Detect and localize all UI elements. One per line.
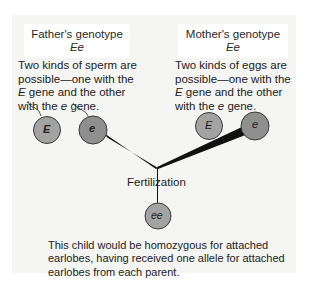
child-genotype-label: ee — [151, 209, 163, 221]
father-gamete-E-label: E — [43, 123, 50, 135]
mother-gamete-e-label: e — [252, 118, 258, 130]
fertilization-label: Fertilization — [127, 176, 186, 188]
mother-gamete-E-label: E — [205, 119, 212, 131]
father-e-leader-line — [73, 103, 88, 116]
father-gamete-path — [101, 131, 158, 169]
child-description: This child would be homozygous for attac… — [48, 239, 288, 279]
father-gamete-e-label: e — [89, 122, 95, 134]
father-E-leader-line — [28, 101, 41, 116]
